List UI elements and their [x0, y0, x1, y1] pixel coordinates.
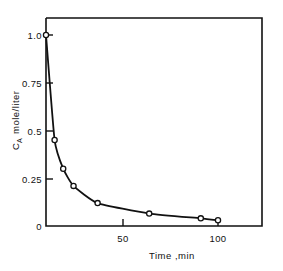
chart-svg: 1.0 0.75 0.5 0.25 0 50 100 Time ,min C A… [0, 0, 283, 271]
data-point-marker [147, 211, 152, 216]
axes-border [46, 18, 262, 226]
y-tick-label-075: 0.75 [22, 78, 42, 89]
data-line [46, 35, 218, 220]
data-point-marker [43, 32, 48, 37]
data-point-marker [61, 166, 66, 171]
data-series-layer [43, 32, 220, 222]
data-point-marker [52, 137, 57, 142]
chart-figure: 1.0 0.75 0.5 0.25 0 50 100 Time ,min C A… [0, 0, 283, 271]
plot-frame [46, 18, 262, 226]
x-tick-label-50: 50 [117, 233, 128, 244]
y-axis-title: C A mole/liter [10, 90, 23, 150]
data-point-marker [198, 216, 203, 221]
y-axis-title-subscript: A [16, 138, 23, 143]
x-axis-ticks [123, 219, 218, 226]
y-tick-label-025: 0.25 [22, 174, 42, 185]
y-tick-label-05: 0.5 [28, 126, 42, 137]
x-axis-title: Time ,min [149, 250, 195, 261]
x-tick-label-100: 100 [209, 233, 226, 244]
y-axis-title-units: mole/liter [10, 90, 21, 134]
y-tick-label-1: 1.0 [28, 30, 42, 41]
data-point-marker [95, 200, 100, 205]
y-tick-label-0: 0 [36, 221, 42, 232]
data-point-marker [71, 183, 76, 188]
data-point-marker [215, 218, 220, 223]
